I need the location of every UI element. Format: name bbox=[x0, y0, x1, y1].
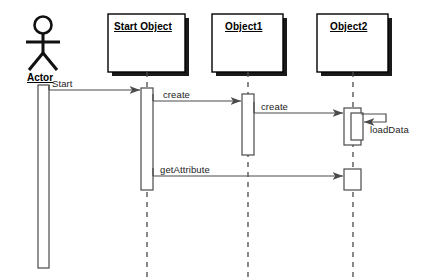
actor-right-leg-icon bbox=[43, 53, 57, 70]
sequence-diagram-canvas: Actor Start Object Object1 Object2 Start… bbox=[0, 0, 439, 277]
message-label-create-object2: create bbox=[261, 102, 288, 112]
message-label-loaddata: loadData bbox=[370, 125, 409, 135]
actor-head-icon bbox=[35, 17, 52, 34]
activation-object1 bbox=[242, 94, 254, 155]
participant-label-object1: Object1 bbox=[225, 22, 262, 32]
diagram-vector-layer bbox=[0, 0, 439, 277]
activation-start-object bbox=[141, 88, 153, 190]
participant-label-object2: Object2 bbox=[330, 22, 367, 32]
message-label-getattribute: getAttribute bbox=[160, 165, 210, 175]
participant-label-start-object: Start Object bbox=[114, 22, 172, 32]
activation-object2-second bbox=[344, 169, 361, 190]
message-arrows bbox=[49, 90, 386, 176]
message-label-start: Start bbox=[52, 79, 73, 89]
actor-figure bbox=[26, 17, 60, 71]
activation-actor bbox=[38, 85, 49, 268]
message-label-create-object1: create bbox=[163, 90, 190, 100]
activation-object2-nested bbox=[351, 113, 363, 140]
actor-label: Actor bbox=[27, 73, 53, 83]
actor-left-leg-icon bbox=[29, 53, 43, 70]
message-arrow-loaddata-self[interactable] bbox=[361, 114, 386, 122]
